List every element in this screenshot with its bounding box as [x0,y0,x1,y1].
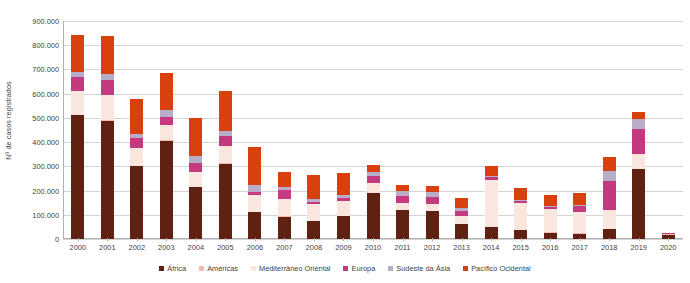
legend-item[interactable]: Américas [199,264,238,273]
bar-segment[interactable] [426,211,439,239]
bar-column[interactable] [189,118,202,239]
bar-column[interactable] [544,195,557,239]
bar-column[interactable] [455,198,468,239]
bar-segment[interactable] [278,190,291,199]
bar-segment[interactable] [367,176,380,183]
bar-segment[interactable] [632,169,645,239]
bar-segment[interactable] [337,173,350,195]
bar-segment[interactable] [248,185,261,192]
legend-item[interactable]: África [159,264,186,273]
bar-segment[interactable] [160,110,173,118]
bar-segment[interactable] [396,210,409,239]
bar-column[interactable] [367,165,380,239]
bar-segment[interactable] [307,204,320,220]
bar-segment[interactable] [307,221,320,239]
bar-segment[interactable] [514,188,527,200]
bar-segment[interactable] [71,77,84,91]
bar-segment[interactable] [71,35,84,71]
bar-segment[interactable] [573,193,586,205]
bar-column[interactable] [485,166,498,239]
bar-column[interactable] [160,73,173,239]
bar-segment[interactable] [101,74,114,81]
legend-item[interactable]: Pacífico Ocidental [463,264,531,273]
bar-segment[interactable] [248,147,261,186]
bar-segment[interactable] [101,121,114,239]
bar-segment[interactable] [603,181,616,209]
bar-column[interactable] [426,186,439,239]
bar-segment[interactable] [603,157,616,172]
bar-segment[interactable] [160,117,173,124]
bar-column[interactable] [248,147,261,239]
bar-segment[interactable] [632,119,645,128]
bar-segment[interactable] [189,163,202,172]
bar-segment[interactable] [278,199,291,216]
bar-segment[interactable] [396,203,409,210]
bar-segment[interactable] [189,187,202,239]
bar-column[interactable] [632,112,645,239]
bar-segment[interactable] [455,224,468,239]
bar-column[interactable] [278,172,291,239]
bar-segment[interactable] [248,195,261,212]
bar-segment[interactable] [71,115,84,239]
bar-segment[interactable] [130,99,143,134]
bar-segment[interactable] [544,209,557,233]
bar-segment[interactable] [219,164,232,239]
bar-segment[interactable] [160,141,173,239]
bar-segment[interactable] [189,156,202,163]
bar-column[interactable] [603,157,616,239]
bar-segment[interactable] [219,146,232,164]
bar-segment[interactable] [130,138,143,148]
bar-column[interactable] [101,36,114,239]
bar-segment[interactable] [573,212,586,233]
bar-segment[interactable] [632,112,645,120]
bar-segment[interactable] [189,172,202,187]
legend-item[interactable]: Europa [343,264,375,273]
bar-segment[interactable] [130,166,143,239]
bar-segment[interactable] [101,36,114,74]
bar-segment[interactable] [160,73,173,110]
bar-segment[interactable] [130,148,143,166]
bar-segment[interactable] [426,204,439,211]
bar-segment[interactable] [307,175,320,199]
bar-segment[interactable] [278,172,291,187]
bar-segment[interactable] [71,91,84,115]
bar-segment[interactable] [367,193,380,239]
bar-segment[interactable] [455,198,468,208]
bar-segment[interactable] [337,201,350,216]
bar-segment[interactable] [337,216,350,239]
bar-segment[interactable] [367,183,380,193]
bar-segment[interactable] [396,196,409,203]
bar-segment[interactable] [367,165,380,173]
x-axis-tick-mark [403,238,404,241]
bar-segment[interactable] [603,171,616,181]
x-axis-tick-label: 2014 [483,243,499,252]
bar-segment[interactable] [632,129,645,154]
bar-segment[interactable] [278,217,291,239]
bar-segment[interactable] [248,212,261,239]
bar-segment[interactable] [544,195,557,206]
bar-segment[interactable] [101,80,114,95]
bar-column[interactable] [307,175,320,239]
bar-segment[interactable] [514,203,527,229]
bar-segment[interactable] [160,125,173,141]
bar-column[interactable] [337,173,350,239]
bar-segment[interactable] [189,118,202,156]
bar-segment[interactable] [101,95,114,120]
bar-segment[interactable] [219,136,232,146]
legend-item[interactable]: Mediterrâneo Oriental [251,264,330,273]
legend-item[interactable]: Sudeste da Ásia [388,264,450,273]
bar-segment[interactable] [219,91,232,131]
legend-swatch-icon [388,266,393,271]
bar-column[interactable] [514,188,527,239]
bar-segment[interactable] [485,166,498,176]
bar-column[interactable] [71,35,84,239]
bar-segment[interactable] [603,210,616,229]
bar-column[interactable] [219,91,232,239]
bar-segment[interactable] [632,154,645,169]
bar-column[interactable] [573,193,586,239]
bar-segment[interactable] [426,197,439,204]
bar-column[interactable] [396,185,409,239]
bar-column[interactable] [130,99,143,239]
bar-segment[interactable] [485,180,498,227]
bar-segment[interactable] [455,216,468,224]
